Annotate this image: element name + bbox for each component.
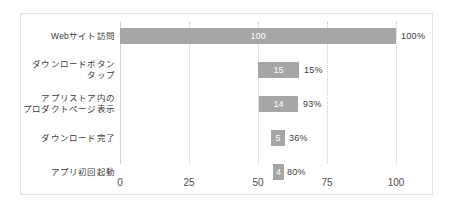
category-label: アプリストア内の プロダクトページ表示 [21, 93, 115, 115]
funnel-row: Webサイト訪問 100 100% [21, 21, 432, 51]
plot-area: 0 25 50 75 100 Webサイト訪問 100 100% ダウンロードボ… [21, 14, 432, 194]
category-label-line: アプリストア内の [21, 93, 115, 104]
bar-value-label: 14 [259, 100, 298, 109]
funnel-bar: 5 [271, 130, 285, 146]
bar-percent-label: 36% [289, 133, 308, 143]
category-label-line: タップ [21, 70, 115, 81]
funnel-row: アプリ初回起動 4 80% [21, 157, 432, 187]
funnel-chart-frame: 0 25 50 75 100 Webサイト訪問 100 100% ダウンロードボ… [20, 13, 433, 195]
funnel-bar: 15 [258, 62, 299, 78]
category-label-line: ダウンロードボタン [21, 59, 115, 70]
funnel-row: ダウンロード完了 5 36% [21, 123, 432, 153]
category-label-line: Webサイト訪問 [21, 31, 115, 42]
bar-value-label: 100 [120, 32, 396, 41]
category-label-line: ダウンロード完了 [21, 133, 115, 144]
bar-percent-label: 100% [401, 31, 425, 41]
funnel-row: ダウンロードボタン タップ 15 15% [21, 55, 432, 85]
bar-percent-label: 93% [303, 99, 322, 109]
funnel-bar: 14 [259, 96, 298, 112]
bar-value-label: 15 [258, 66, 299, 75]
bar-percent-label: 80% [287, 167, 306, 177]
category-label: Webサイト訪問 [21, 31, 115, 42]
category-label: ダウンロードボタン タップ [21, 59, 115, 81]
category-label-line: プロダクトページ表示 [21, 104, 115, 115]
bar-value-label: 4 [273, 168, 284, 177]
funnel-row: アプリストア内の プロダクトページ表示 14 93% [21, 89, 432, 119]
bar-percent-label: 15% [304, 65, 323, 75]
bar-value-label: 5 [271, 134, 285, 143]
funnel-bar: 100 [120, 28, 396, 44]
category-label: ダウンロード完了 [21, 133, 115, 144]
category-label: アプリ初回起動 [21, 167, 115, 178]
funnel-bar: 4 [273, 164, 284, 180]
category-label-line: アプリ初回起動 [21, 167, 115, 178]
